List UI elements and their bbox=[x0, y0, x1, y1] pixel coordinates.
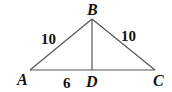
label-d: D bbox=[85, 73, 98, 90]
length-bc: 10 bbox=[121, 28, 136, 44]
length-ab: 10 bbox=[41, 31, 56, 47]
length-ad: 6 bbox=[63, 75, 71, 91]
segment-bc bbox=[92, 19, 155, 70]
label-a: A bbox=[16, 71, 28, 88]
label-c: C bbox=[153, 72, 164, 89]
triangle-diagram: B A D C 10 10 6 bbox=[0, 0, 172, 92]
segment-ab bbox=[30, 19, 92, 70]
label-b: B bbox=[86, 1, 98, 18]
